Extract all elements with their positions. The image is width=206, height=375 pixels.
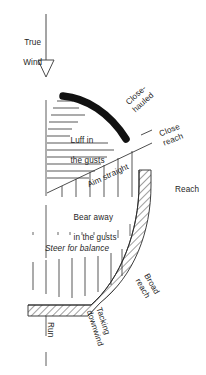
bear-away-line2: in the gusts — [74, 233, 117, 242]
luff-in-gusts-label: Luff in the gusts — [61, 126, 105, 176]
luff-line2: the gusts — [71, 156, 105, 165]
true-wind-line1: True — [24, 38, 41, 47]
luff-line1: Luff in — [71, 136, 94, 145]
true-wind-label: True Wind — [13, 28, 43, 78]
close-reach-pointer — [141, 130, 152, 135]
reach-label: Reach — [175, 185, 199, 195]
steer-for-balance-label: Steer for balance — [45, 244, 109, 254]
run-label: Run — [45, 322, 55, 337]
bear-away-line1: Bear away — [74, 213, 114, 222]
true-wind-line2: Wind — [23, 58, 42, 67]
points-of-sail-diagram: True Wind Close- hauled Close reach Reac… — [0, 0, 206, 375]
run-text: Run — [45, 322, 55, 337]
